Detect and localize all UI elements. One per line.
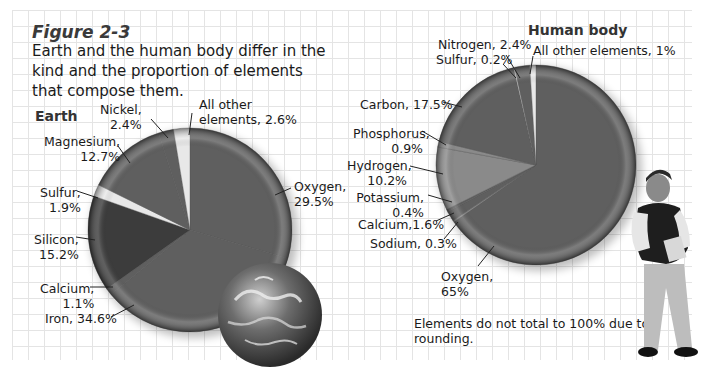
earth-label-calcium: Calcium,1.1%	[40, 281, 94, 311]
earth-globe-image	[218, 263, 322, 367]
earth-label-other: All otherelements, 2.6%	[199, 97, 297, 127]
body-label-sodium: Sodium, 0.3%	[370, 236, 457, 251]
body-label-phosphorus: Phosphorus,0.9%	[353, 126, 423, 156]
body-label-nitrogen: Nitrogen, 2.4%	[438, 37, 532, 52]
body-label-calcium: Calcium,1.6%	[358, 217, 444, 232]
body-label-potassium: Potassium,0.4%	[356, 190, 424, 220]
body-label-oxygen: Oxygen,65%	[441, 269, 493, 299]
body-label-sulfur: Sulfur, 0.2%	[436, 52, 513, 67]
earth-label-magnesium: Magnesium,12.7%	[44, 134, 120, 164]
earth-label-sulfur: Sulfur,1.9%	[40, 185, 81, 215]
earth-chart-title: Earth	[35, 108, 78, 124]
body-chart-title: Human body	[528, 22, 627, 38]
earth-label-nickel: Nickel,2.4%	[100, 102, 142, 132]
body-label-other: All other elements, 1%	[533, 43, 676, 58]
earth-label-silicon: Silicon,15.2%	[34, 232, 79, 262]
earth-label-iron: Iron, 34.6%	[45, 311, 117, 326]
body-pie-rim	[436, 65, 636, 265]
body-label-carbon: Carbon, 17.5%	[360, 97, 453, 112]
body-label-hydrogen: Hydrogen,10.2%	[347, 158, 407, 188]
student-photo	[628, 160, 703, 360]
earth-label-oxygen: Oxygen,29.5%	[294, 179, 346, 209]
